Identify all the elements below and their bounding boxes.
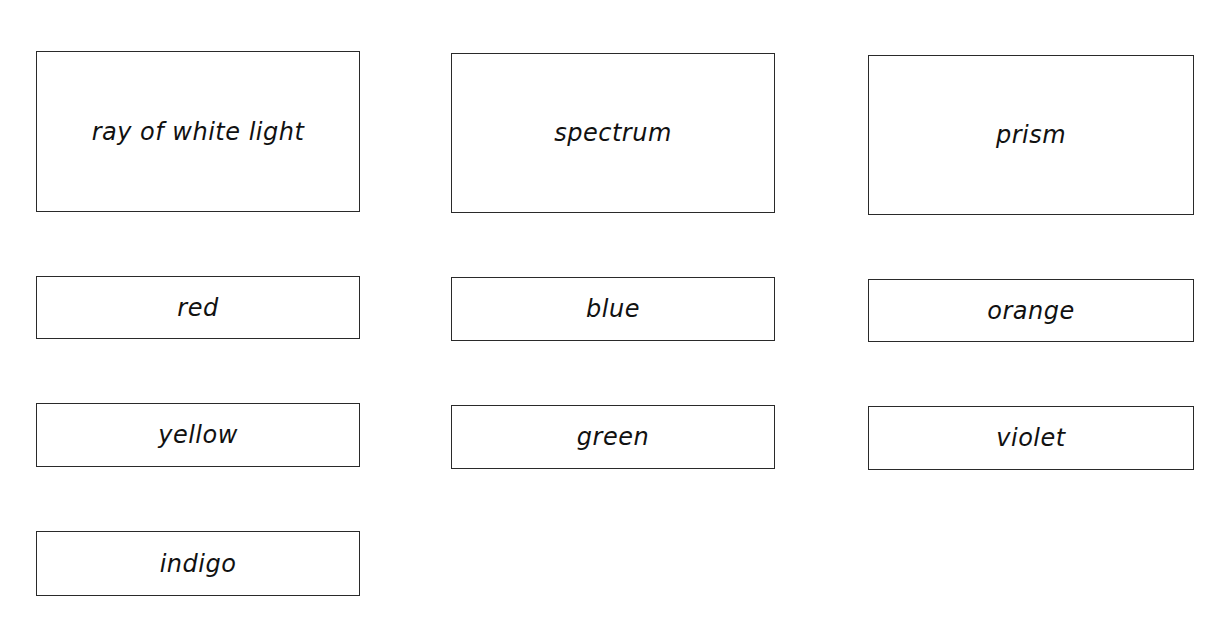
card-label: orange <box>987 299 1074 323</box>
card-green: green <box>451 405 775 469</box>
card-label: violet <box>996 426 1065 450</box>
card-blue: blue <box>451 277 775 341</box>
card-label: ray of white light <box>92 120 305 144</box>
card-spectrum: spectrum <box>451 53 775 213</box>
card-yellow: yellow <box>36 403 360 467</box>
card-red: red <box>36 276 360 339</box>
card-label: spectrum <box>554 121 672 145</box>
card-orange: orange <box>868 279 1194 342</box>
card-label: indigo <box>160 552 237 576</box>
card-prism: prism <box>868 55 1194 215</box>
card-violet: violet <box>868 406 1194 470</box>
card-label: yellow <box>158 423 238 447</box>
card-label: prism <box>996 123 1066 147</box>
card-label: green <box>577 425 649 449</box>
card-label: blue <box>586 297 640 321</box>
card-indigo: indigo <box>36 531 360 596</box>
card-ray-of-white-light: ray of white light <box>36 51 360 212</box>
card-label: red <box>177 296 218 320</box>
